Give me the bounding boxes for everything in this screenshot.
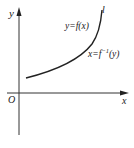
x-axis-label: x <box>121 95 127 106</box>
curve-label-finverse: x=f−1(y) <box>87 47 119 60</box>
y-axis-arrow-icon <box>17 7 22 16</box>
curve-l <box>26 10 102 78</box>
curve-label-finverse-prefix: x=f <box>87 49 103 59</box>
y-axis-label: y <box>8 7 14 19</box>
curve-label-finverse-suffix: (y) <box>109 49 120 60</box>
curve-label-fx: y=f(x) <box>64 21 89 32</box>
curve-name-label: l <box>102 4 105 15</box>
function-graph: y O x l y=f(x) x=f−1(y) <box>0 0 134 148</box>
origin-label: O <box>8 94 15 105</box>
curve-label-finverse-sup: −1 <box>101 47 109 54</box>
